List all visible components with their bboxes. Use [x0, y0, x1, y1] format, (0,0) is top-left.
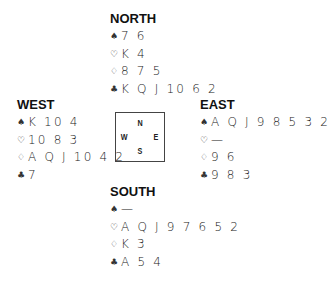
compass-south: S — [121, 146, 159, 156]
heart-icon: ♡ — [110, 46, 121, 64]
south-label: SOUTH — [110, 183, 240, 201]
east-diamonds: ♢9 6 — [200, 149, 330, 167]
heart-icon: ♡ — [110, 219, 121, 237]
east-label: EAST — [200, 96, 330, 114]
west-hearts: ♡10 8 3 — [17, 132, 125, 150]
south-spades: ♠— — [110, 201, 240, 219]
north-hand: NORTH ♠7 6 ♡K 4 ♢8 7 5 ♣K Q J 10 6 2 — [110, 10, 218, 98]
compass-box: N W E S — [115, 112, 165, 162]
spade-icon: ♠ — [17, 114, 28, 132]
heart-icon: ♡ — [17, 132, 28, 150]
diamond-icon: ♢ — [200, 149, 211, 167]
club-icon: ♣ — [17, 167, 28, 185]
east-spades: ♠A Q J 9 8 5 3 2 — [200, 114, 330, 132]
north-spades: ♠7 6 — [110, 28, 218, 46]
west-clubs: ♣7 — [17, 167, 125, 185]
west-spades: ♠K 10 4 — [17, 114, 125, 132]
spade-icon: ♠ — [110, 201, 121, 219]
spade-icon: ♠ — [110, 28, 121, 46]
north-diamonds: ♢8 7 5 — [110, 63, 218, 81]
diamond-icon: ♢ — [17, 149, 28, 167]
west-label: WEST — [17, 96, 125, 114]
south-hand: SOUTH ♠— ♡A Q J 9 7 6 5 2 ♢K 3 ♣A 5 4 — [110, 183, 240, 271]
heart-icon: ♡ — [200, 132, 211, 150]
west-diamonds: ♢A Q J 10 4 2 — [17, 149, 125, 167]
south-clubs: ♣A 5 4 — [110, 254, 240, 272]
compass-west: W — [121, 132, 128, 142]
diamond-icon: ♢ — [110, 63, 121, 81]
south-diamonds: ♢K 3 — [110, 236, 240, 254]
north-label: NORTH — [110, 10, 218, 28]
spade-icon: ♠ — [200, 114, 211, 132]
east-hearts: ♡— — [200, 132, 330, 150]
compass-north: N — [121, 118, 159, 128]
compass-east: E — [154, 132, 159, 142]
east-clubs: ♣9 8 3 — [200, 167, 330, 185]
west-hand: WEST ♠K 10 4 ♡10 8 3 ♢A Q J 10 4 2 ♣7 — [17, 96, 125, 184]
north-hearts: ♡K 4 — [110, 46, 218, 64]
diamond-icon: ♢ — [110, 236, 121, 254]
club-icon: ♣ — [110, 254, 121, 272]
club-icon: ♣ — [200, 167, 211, 185]
east-hand: EAST ♠A Q J 9 8 5 3 2 ♡— ♢9 6 ♣9 8 3 — [200, 96, 330, 184]
south-hearts: ♡A Q J 9 7 6 5 2 — [110, 219, 240, 237]
